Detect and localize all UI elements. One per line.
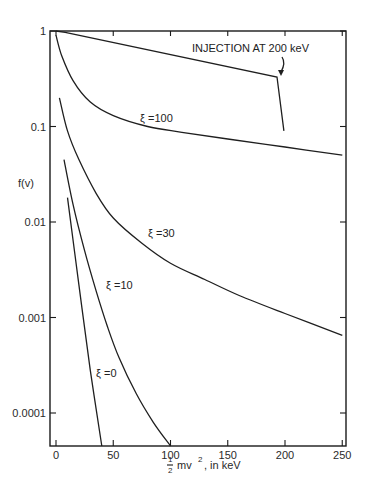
x-tick-label: 50	[107, 449, 119, 461]
log-plot: 05010015020025010.10.010.0010.0001 INJEC…	[0, 0, 369, 499]
y-axis-label: f(v)	[18, 177, 34, 189]
y-tick-label: 0.0001	[12, 407, 46, 419]
x-label-frac-num: 1	[168, 455, 173, 464]
curve--10	[64, 160, 171, 446]
curve--0	[68, 198, 102, 446]
label-xi-0: ξ =0	[96, 367, 117, 379]
label-xi-30: ξ =30	[148, 227, 175, 239]
y-tick-label: 0.1	[31, 121, 46, 133]
arrowhead-icon	[278, 70, 284, 76]
x-tick-label: 250	[333, 449, 351, 461]
injection-label: INJECTION AT 200 keV	[192, 42, 310, 54]
x-tick-label: 0	[53, 449, 59, 461]
y-tick-label: 1	[40, 25, 46, 37]
label-xi-100: ξ =100	[140, 112, 173, 124]
curve--30	[59, 98, 342, 336]
x-label-sup: 2	[198, 455, 203, 464]
annotation-arrow	[281, 57, 284, 72]
y-tick-label: 0.01	[25, 216, 46, 228]
x-label-mv: mv	[177, 459, 192, 471]
axis-tick-labels: 05010015020025010.10.010.0010.0001	[12, 25, 351, 461]
x-label-unit: , in keV	[204, 459, 241, 471]
y-tick-label: 0.001	[18, 312, 46, 324]
plot-frame	[50, 31, 346, 446]
x-label-frac-den: 2	[168, 466, 173, 475]
x-tick-label: 200	[276, 449, 294, 461]
label-xi-10: ξ =10	[106, 279, 133, 291]
axis-ticks	[50, 31, 346, 446]
curves	[56, 31, 342, 446]
